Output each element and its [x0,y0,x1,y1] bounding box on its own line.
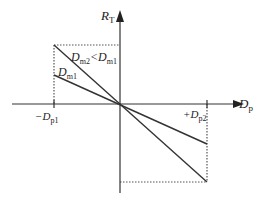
y-axis-arrow-icon [116,10,124,22]
x-axis-label: Dp [238,96,253,113]
label-dm2: Dm2<Dm1 [70,50,117,66]
y-axis-label: RT [100,8,115,25]
tick-label-right: +Dp2 [183,108,206,123]
tick-label-left: −Dp1 [35,110,58,125]
diagram-canvas: RT Dp −Dp1 +Dp2 Dm2<Dm1 Dm1 [0,0,262,204]
label-dm1: Dm1 [57,65,77,81]
